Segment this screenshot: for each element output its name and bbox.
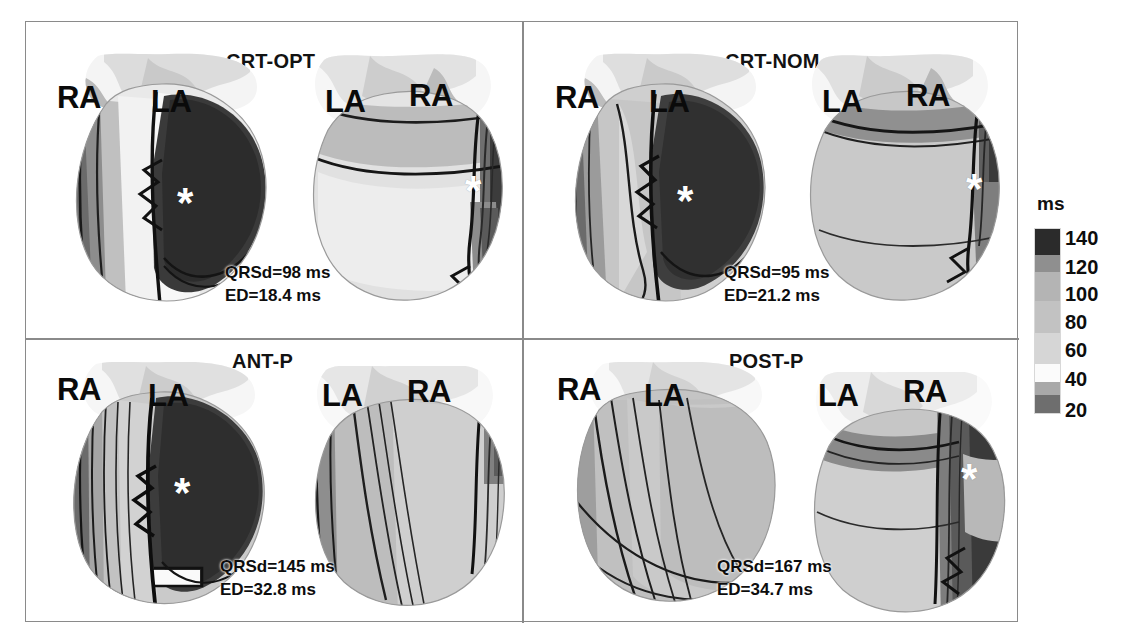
- panel-grid-frame: CRT-OPT: [25, 21, 1018, 622]
- panel-crt-nom: CRT-NOM: [523, 22, 1018, 338]
- chamber-label-ra-right: RA: [906, 78, 950, 114]
- colorbar-band-140: [1035, 229, 1060, 255]
- chamber-label-ra-right: RA: [407, 374, 451, 410]
- metrics-crt-opt: QRSd=98 ms ED=18.4 ms: [225, 262, 330, 308]
- panel-post-p: POST-P: [523, 340, 1018, 622]
- metrics-post-p: QRSd=167 ms ED=34.7 ms: [717, 556, 832, 602]
- chamber-label-ra-right: RA: [903, 374, 947, 410]
- pacing-site-marker-right: *: [966, 168, 982, 210]
- chamber-label-la-right: LA: [325, 84, 365, 120]
- panel-crt-opt: CRT-OPT: [26, 22, 522, 338]
- chamber-label-la-right: LA: [322, 378, 362, 414]
- pacing-site-marker-left: *: [174, 472, 190, 514]
- colorbar-tick-40: 40: [1065, 369, 1087, 389]
- chamber-label-ra-left: RA: [557, 372, 601, 408]
- colorbar-tick-80: 80: [1065, 312, 1087, 332]
- colorbar-band-120: [1035, 255, 1060, 272]
- ed-value-crt-nom: ED=21.2 ms: [724, 285, 829, 308]
- ed-value-post-p: ED=34.7 ms: [717, 579, 832, 602]
- metrics-crt-nom: QRSd=95 ms ED=21.2 ms: [724, 262, 829, 308]
- qrsd-value-ant-p: QRSd=145 ms: [220, 556, 335, 579]
- colorbar-legend: ms 140 120 100 80 60 40 20: [1027, 193, 1119, 425]
- qrsd-value-crt-nom: QRSd=95 ms: [724, 262, 829, 285]
- ed-value-crt-opt: ED=18.4 ms: [225, 285, 330, 308]
- colorbar-band-40: [1035, 364, 1060, 382]
- colorbar-tick-labels: 140 120 100 80 60 40 20: [1065, 219, 1119, 415]
- chamber-label-ra-left: RA: [57, 80, 101, 116]
- chamber-label-ra-left: RA: [555, 80, 599, 116]
- pacing-site-marker-left: *: [677, 180, 693, 222]
- colorbar-band-80: [1035, 301, 1060, 333]
- colorbar-band-30: [1035, 382, 1060, 395]
- chamber-label-ra-left: RA: [57, 372, 101, 408]
- chamber-label-la-right: LA: [822, 84, 862, 120]
- chamber-label-la-left: LA: [644, 378, 684, 414]
- pacing-site-marker-right: *: [961, 458, 977, 500]
- pacing-site-marker-left: *: [177, 182, 193, 224]
- chamber-label-ra-right: RA: [409, 78, 453, 114]
- chamber-label-la-left: LA: [151, 84, 191, 120]
- colorbar-tick-100: 100: [1065, 284, 1098, 304]
- colorbar-band-20: [1035, 395, 1060, 413]
- colorbar-band-60: [1035, 333, 1060, 364]
- qrsd-value-post-p: QRSd=167 ms: [717, 556, 832, 579]
- chamber-label-la-right: LA: [818, 378, 858, 414]
- chamber-label-la-left: LA: [649, 84, 689, 120]
- colorbar-tick-20: 20: [1065, 400, 1087, 420]
- panel-ant-p: ANT-P: [26, 340, 522, 622]
- colorbar-band-100: [1035, 272, 1060, 301]
- colorbar-tick-140: 140: [1065, 228, 1098, 248]
- figure-canvas: CRT-OPT: [0, 0, 1123, 634]
- metrics-ant-p: QRSd=145 ms ED=32.8 ms: [220, 556, 335, 602]
- chamber-label-la-left: LA: [148, 378, 188, 414]
- colorbar-tick-60: 60: [1065, 340, 1087, 360]
- ed-value-ant-p: ED=32.8 ms: [220, 579, 335, 602]
- colorbar-tick-120: 120: [1065, 257, 1098, 277]
- colorbar-unit-label: ms: [1037, 193, 1064, 215]
- pacing-site-marker-right: *: [465, 170, 481, 212]
- colorbar-gradient: [1034, 228, 1061, 414]
- qrsd-value-crt-opt: QRSd=98 ms: [225, 262, 330, 285]
